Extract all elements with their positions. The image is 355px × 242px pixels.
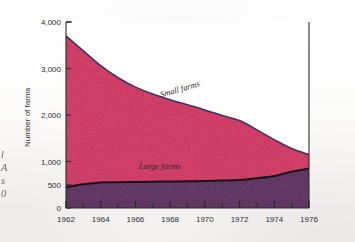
x-axis-tick-label: 1970 [196,215,214,224]
y-axis-title: Number of farms [23,87,32,147]
y-axis-tick-label: 1,000 [41,158,62,167]
y-axis-tick-label: 2,000 [41,111,62,120]
large-farms-label: Large farms [138,161,181,171]
x-axis-tick-label: 1972 [231,215,249,224]
y-axis-tick-labels: 05001,0002,0003,0004,000 [41,18,62,213]
x-axis-tick-label: 1966 [127,215,145,224]
x-axis-tick-label: 1964 [92,215,110,224]
stacked-area-chart: 05001,0002,0003,0004,000 196219641966196… [0,0,355,242]
x-axis-tick-label: 1962 [57,215,75,224]
y-axis-tick-label: 3,000 [41,65,62,74]
y-axis-tick-label: 0 [57,204,62,213]
x-axis-tick-label: 1968 [161,215,179,224]
x-axis-tick-labels: 19621964196619681970197219741976 [57,215,318,224]
y-axis-tick-label: 4,000 [41,18,62,27]
y-axis-tick-label: 500 [48,181,62,190]
x-axis-tick-label: 1976 [300,215,318,224]
x-axis-tick-label: 1974 [265,215,283,224]
chart-figure: l A s 0 [0,0,355,242]
